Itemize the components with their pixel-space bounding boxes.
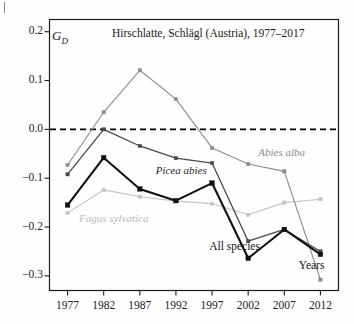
y-axis-tick-label: 0.0 <box>3 122 43 134</box>
series-annotation-abies-alba: Abies alba <box>258 146 305 158</box>
y-axis-symbol-label: GD <box>52 28 68 46</box>
x-axis-tick-label: 2012 <box>295 299 345 311</box>
chart-title: Hirschlatte, Schlägl (Austria), 1977–201… <box>112 27 305 39</box>
series-annotation-all-species: All species <box>209 240 260 252</box>
y-axis-tick-label: −0.1 <box>3 171 43 183</box>
y-axis-tick-label: −0.3 <box>3 268 43 280</box>
y-axis-tick-label: 0.2 <box>3 24 43 36</box>
y-axis-symbol-letter: G <box>52 28 61 43</box>
y-axis-tick-label: −0.2 <box>3 220 43 232</box>
chart-figure: 0.20.10.0−0.1−0.2−0.31977198219871992199… <box>0 0 354 324</box>
line-chart-canvas <box>0 0 354 324</box>
y-axis-tick-label: 0.1 <box>3 73 43 85</box>
series-annotation-years: Years <box>299 259 325 271</box>
series-annotation-picea-abies: Picea abies <box>156 164 207 176</box>
series-annotation-fagus-sylvatica: Fagus sylvatica <box>79 212 148 224</box>
page-corner-mark <box>4 2 5 13</box>
y-axis-symbol-subscript: D <box>61 36 68 46</box>
